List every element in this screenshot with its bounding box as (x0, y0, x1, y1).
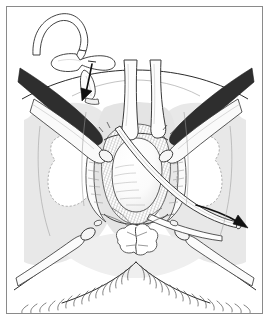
surgical-illustration (0, 0, 270, 321)
inset-tube-mouth (85, 98, 99, 104)
anal-verge-outline (116, 224, 157, 255)
t-tube-curved-limb (33, 14, 88, 55)
anal-verge (116, 224, 157, 255)
figure-root (0, 0, 270, 321)
blade-left-shaft (122, 60, 138, 140)
t-tube-catheter-inset (33, 14, 115, 72)
